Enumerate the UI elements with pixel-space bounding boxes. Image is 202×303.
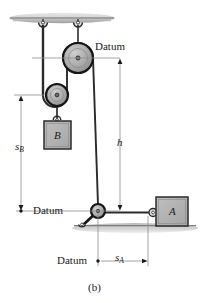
label-dimension-h: h bbox=[117, 137, 123, 148]
label-datum-bottom: Datum bbox=[57, 255, 87, 266]
pulley-large-fixed bbox=[63, 25, 93, 73]
label-datum-middle: Datum bbox=[33, 205, 63, 216]
label-sa-subscript: A bbox=[119, 256, 124, 265]
pulley-small-movable bbox=[46, 84, 68, 106]
label-dimension-sa: sA bbox=[115, 252, 124, 265]
dimension-h bbox=[118, 59, 123, 211]
label-sb-subscript: B bbox=[19, 145, 24, 154]
ceiling bbox=[9, 13, 115, 23]
pulley-system-figure: Datum Datum Datum sB h sA B A (b) bbox=[0, 0, 202, 303]
datum-line-bottom-vertical bbox=[96, 214, 99, 266]
figure-caption: (b) bbox=[88, 282, 101, 293]
label-dimension-sb: sB bbox=[15, 141, 24, 154]
label-block-b: B bbox=[54, 130, 61, 141]
label-datum-top: Datum bbox=[95, 41, 125, 52]
label-block-a: A bbox=[169, 206, 176, 217]
pulley-bottom-corner bbox=[82, 204, 105, 226]
cord bbox=[43, 25, 152, 213]
